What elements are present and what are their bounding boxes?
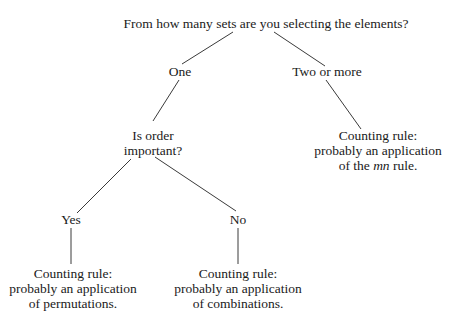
order-question-line2: important? <box>124 143 182 158</box>
outcome-mn-line1: Counting rule: <box>314 128 441 143</box>
outcome-permutations-line2: probably an application <box>9 281 136 296</box>
branch-no: No <box>230 212 247 227</box>
outcome-combinations-line3: of combinations. <box>174 296 301 311</box>
outcome-combinations-line1: Counting rule: <box>174 266 301 281</box>
branch-two-or-more: Two or more <box>292 64 362 79</box>
edge-order-yes <box>77 159 131 213</box>
outcome-permutations-line1: Counting rule: <box>9 266 136 281</box>
edge-root-one <box>182 32 233 64</box>
outcome-mn-line3-suffix: rule. <box>390 158 418 173</box>
outcome-mn-line3-prefix: of the <box>339 158 374 173</box>
outcome-combinations: Counting rule: probably an application o… <box>174 266 301 311</box>
edge-root-two-or-more <box>274 32 325 66</box>
branch-yes-label: Yes <box>61 212 81 227</box>
outcome-mn-line2: probably an application <box>314 143 441 158</box>
order-question: Is order important? <box>124 128 182 158</box>
outcome-mn-rule: Counting rule: probably an application o… <box>314 128 441 173</box>
branch-two-or-more-label: Two or more <box>292 64 362 79</box>
branch-one-label: One <box>169 64 192 79</box>
branch-one: One <box>169 64 192 79</box>
root-question: From how many sets are you selecting the… <box>124 16 409 31</box>
outcome-mn-line3: of the mn rule. <box>314 158 441 173</box>
branch-yes: Yes <box>61 212 81 227</box>
edge-two-mn <box>326 80 361 129</box>
edge-one-order <box>153 80 179 121</box>
outcome-mn-italic: mn <box>373 158 390 173</box>
outcome-permutations-line3: of permutations. <box>9 296 136 311</box>
order-question-line1: Is order <box>124 128 182 143</box>
outcome-combinations-line2: probably an application <box>174 281 301 296</box>
branch-no-label: No <box>230 212 247 227</box>
root-question-text: From how many sets are you selecting the… <box>124 16 409 31</box>
outcome-permutations: Counting rule: probably an application o… <box>9 266 136 311</box>
edge-order-no <box>155 157 236 211</box>
